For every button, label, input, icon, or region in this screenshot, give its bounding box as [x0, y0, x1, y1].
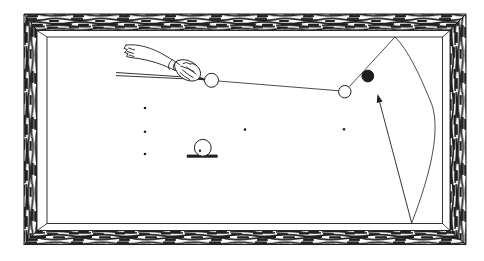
target-black-ball: [362, 70, 374, 82]
marker-ball: [194, 139, 211, 156]
table-spot: [144, 153, 147, 156]
frame-left-bar: [24, 14, 37, 245]
cushion-bevel: [37, 31, 450, 231]
table-spot: [244, 128, 247, 131]
billiard-table-illustration: [0, 0, 484, 261]
illustration-stage: [0, 0, 484, 261]
object-ball: [339, 86, 351, 98]
table-spot: [144, 131, 147, 134]
frame-right-bar: [450, 14, 466, 245]
table-spot: [343, 128, 346, 131]
cue-ball: [205, 73, 219, 87]
table-spot: [144, 107, 147, 110]
frame-bottom-bar: [24, 231, 466, 245]
frame-top-bar: [24, 14, 466, 31]
marker-spot: [199, 150, 201, 152]
